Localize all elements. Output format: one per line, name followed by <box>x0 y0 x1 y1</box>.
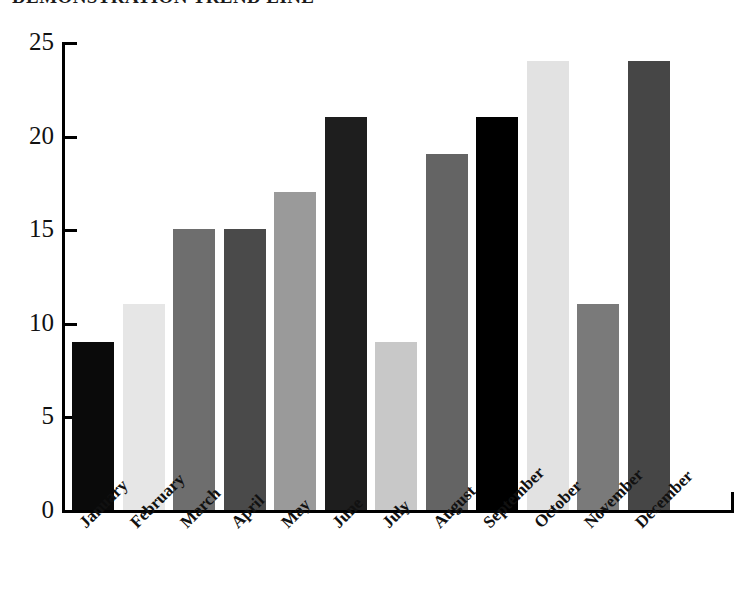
y-axis-label-15: 15 <box>2 216 54 241</box>
bar-june[interactable] <box>325 117 367 510</box>
bar-october[interactable] <box>527 61 569 510</box>
bar-august[interactable] <box>426 154 468 510</box>
bar-july[interactable] <box>375 342 417 510</box>
bar-february[interactable] <box>123 304 165 510</box>
bar-may[interactable] <box>274 192 316 510</box>
y-axis-label-25: 25 <box>2 29 54 54</box>
y-axis-label-5: 5 <box>2 403 54 428</box>
y-axis-label-20: 20 <box>2 123 54 148</box>
chart-title: DEMONSTRATION TREND LINE <box>12 0 314 8</box>
bar-chart-figure: DEMONSTRATION TREND LINE 25 20 15 10 5 0… <box>0 0 751 606</box>
bar-november[interactable] <box>577 304 619 510</box>
bar-december[interactable] <box>628 61 670 510</box>
y-axis-label-0: 0 <box>2 497 54 522</box>
x-axis-end-cap <box>731 492 734 513</box>
y-axis-label-10: 10 <box>2 310 54 335</box>
bar-april[interactable] <box>224 229 266 510</box>
bar-september[interactable] <box>476 117 518 510</box>
plot-area <box>62 42 731 510</box>
bar-march[interactable] <box>173 229 215 510</box>
